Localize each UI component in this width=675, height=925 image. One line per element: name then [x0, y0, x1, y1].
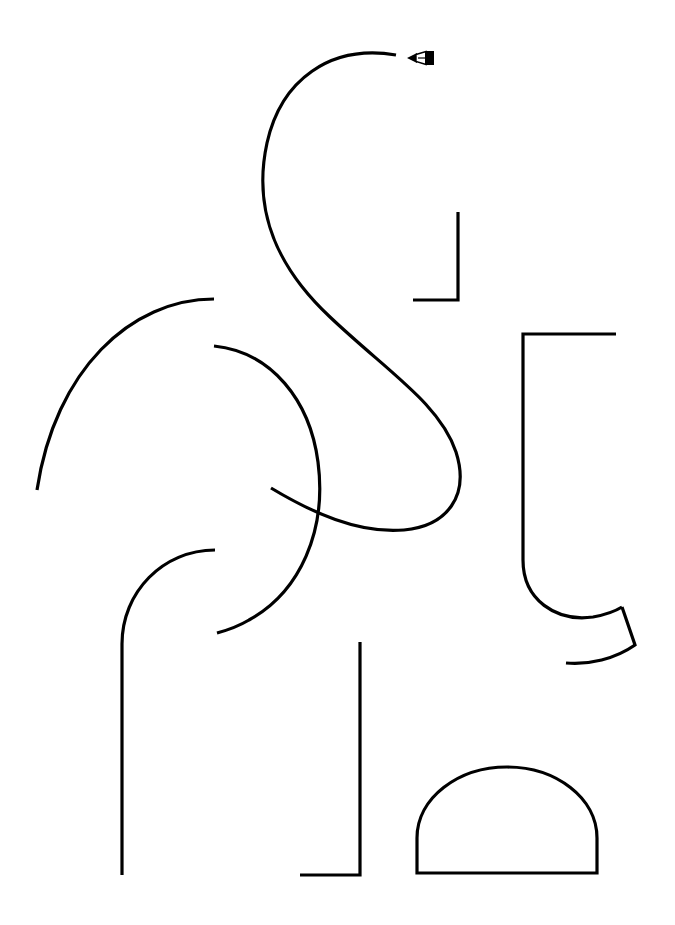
vector-path-rounded-corner-left[interactable] [122, 550, 215, 875]
vector-path-dome[interactable] [417, 767, 597, 873]
vector-drawing-surface[interactable] [0, 0, 675, 925]
drawing-canvas[interactable] [0, 0, 675, 925]
vector-path-corner-bottom-center[interactable] [300, 642, 360, 875]
vector-path-p-curve[interactable] [214, 346, 320, 633]
vector-path-j-hook-right[interactable] [523, 334, 622, 618]
vector-path-quarter-arc-left[interactable] [37, 299, 214, 490]
vector-path-s-curve[interactable] [263, 53, 460, 530]
vector-path-corner-top-right[interactable] [413, 212, 458, 300]
shape-layer [37, 53, 635, 875]
